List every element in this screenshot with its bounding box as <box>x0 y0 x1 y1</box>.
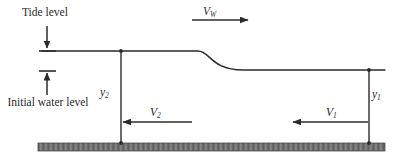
velocity-1-base: V <box>326 106 333 118</box>
tide-level-label: Tide level <box>22 6 68 19</box>
velocity-2-sub: 2 <box>157 111 161 120</box>
wave-speed-base: V <box>203 5 210 17</box>
tidal-bore-diagram: Tide level Initial water level VW V2 V1 … <box>0 0 408 162</box>
depth-2-label: y2 <box>100 86 109 98</box>
depth-line-y2-top-node <box>119 49 123 53</box>
wave-speed-label: VW <box>203 5 216 17</box>
depth-line-y1-bottom-node <box>367 141 371 145</box>
depth-2-sub: 2 <box>105 91 109 100</box>
velocity-1-label: V1 <box>326 106 337 118</box>
initial-water-level-label: Initial water level <box>4 96 92 109</box>
depth-1-sub: 1 <box>377 93 381 102</box>
velocity-1-sub: 1 <box>333 111 337 120</box>
velocity-2-label: V2 <box>150 106 161 118</box>
diagram-canvas <box>0 0 408 162</box>
channel-bed <box>38 143 385 151</box>
water-surface-profile <box>42 51 385 70</box>
velocity-2-base: V <box>150 106 157 118</box>
depth-line-y2-bottom-node <box>119 141 123 145</box>
depth-line-y1-top-node <box>367 68 371 72</box>
depth-1-label: y1 <box>372 88 381 100</box>
wave-speed-sub: W <box>210 10 216 19</box>
